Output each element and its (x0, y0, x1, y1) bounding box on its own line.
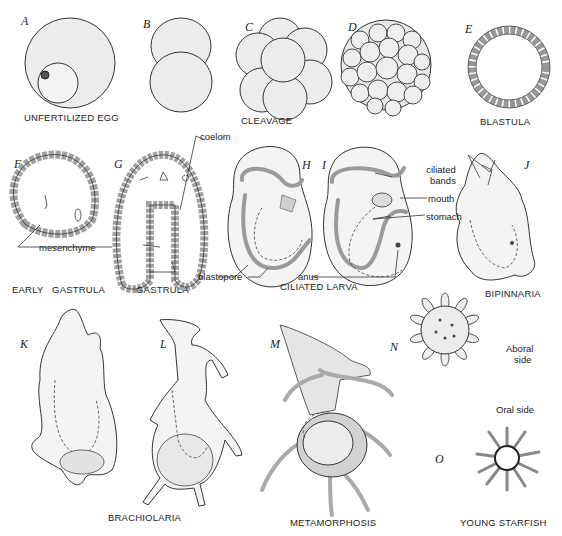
caption-metamorphosis: METAMORPHOSIS (290, 517, 376, 528)
starfish-development-diagram: A B C D E F G H I J K L M N O UNFERTILIZ… (0, 0, 562, 536)
label-mouth: mouth (428, 193, 454, 204)
metamorphosis-drawing (262, 325, 392, 515)
panel-letter-j: J (524, 158, 529, 173)
young-starfish-aboral-drawing (409, 293, 480, 366)
panel-letter-o: O (435, 452, 444, 467)
label-ciliated-bands-line2: bands (426, 175, 456, 186)
label-mesenchyme: mesenchyme (39, 242, 96, 253)
panel-letter-f: F (14, 157, 21, 172)
panel-letter-d: D (348, 20, 357, 35)
ciliated-larva-i-drawing (324, 147, 413, 285)
label-stomach: stomach (426, 211, 462, 222)
caption-blastula: BLASTULA (480, 116, 530, 127)
panel-letter-c: C (245, 20, 253, 35)
panel-letter-m: M (270, 337, 280, 352)
early-gastrula-drawing (13, 155, 95, 234)
panel-letter-a: A (21, 14, 28, 29)
ciliated-larva-h-drawing (228, 146, 312, 286)
two-cell-stage-drawing (150, 18, 212, 112)
label-anus: anus (298, 271, 319, 282)
caption-brachiolaria: BRACHIOLARIA (108, 512, 181, 523)
caption-young-starfish: YOUNG STARFISH (460, 517, 547, 528)
panel-letter-b: B (143, 17, 150, 32)
caption-unfertilized-egg: UNFERTILIZED EGG (24, 112, 119, 123)
panel-letter-i: I (322, 158, 326, 173)
caption-cleavage: CLEAVAGE (241, 115, 292, 126)
unfertilized-egg-drawing (25, 18, 115, 108)
label-aboral-line2: side (508, 354, 531, 365)
panel-letter-l: L (160, 337, 167, 352)
label-ciliated-bands: ciliated bands (426, 164, 456, 186)
blastula-drawing (468, 26, 550, 108)
panel-letter-h: H (302, 158, 311, 173)
panel-letter-k: K (20, 337, 28, 352)
label-coelom: coelom (200, 131, 231, 142)
brachiolaria-l-drawing (143, 319, 242, 506)
young-starfish-oral-drawing (477, 428, 539, 490)
label-oral-side: Oral side (496, 404, 534, 415)
caption-ciliated-larva: CILIATED LARVA (280, 281, 358, 292)
panel-letter-g: G (114, 157, 123, 172)
caption-early-gastrula: EARLY GASTRULA (12, 284, 105, 295)
panel-letter-e: E (465, 22, 472, 37)
panel-letter-n: N (390, 340, 398, 355)
caption-bipinnaria: BIPINNARIA (485, 288, 541, 299)
label-aboral-line1: Aboral (506, 343, 533, 354)
label-blastopore: blastopore (198, 271, 242, 282)
caption-gastrula: GASTRULA (136, 284, 189, 295)
label-ciliated-bands-line1: ciliated (426, 164, 456, 175)
gastrula-drawing (116, 155, 204, 289)
bipinnaria-drawing (456, 153, 535, 280)
brachiolaria-k-drawing (32, 309, 117, 484)
label-aboral-side: Aboral side (506, 343, 533, 365)
